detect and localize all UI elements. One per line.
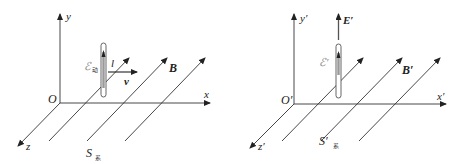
conducting-rod-prime: [336, 44, 341, 98]
relativity-frames-diagram: y x z O B l v ℰ 动 S 系 y′ x′ z′ O′ B: [0, 0, 457, 164]
origin-label: O: [48, 92, 57, 106]
b-prime-field-line: [321, 58, 402, 141]
x-axis-label: x: [203, 88, 209, 100]
b-field-line: [125, 58, 205, 141]
b-prime-field-label: B′: [401, 63, 413, 77]
b-prime-field-line: [359, 58, 440, 141]
frame-subscript: 系: [95, 154, 101, 161]
origin-prime-label: O′: [281, 93, 293, 107]
b-field-line: [87, 58, 167, 141]
conducting-rod: [101, 43, 106, 97]
y-prime-axis-label: y′: [299, 12, 308, 24]
frame-prime-subscript: 系: [333, 142, 339, 149]
z-axis: [18, 103, 60, 146]
y-axis-label: y: [65, 10, 71, 22]
emf-subscript: 动: [92, 66, 98, 74]
left-panel-s-frame: y x z O B l v ℰ 动 S 系: [18, 10, 210, 161]
electric-field-label: E′: [342, 14, 353, 26]
b-field-label: B: [168, 61, 177, 75]
emf-prime-label: ℰ′: [319, 56, 329, 68]
frame-label: S: [86, 146, 92, 160]
rod-length-label: l: [111, 57, 114, 69]
z-prime-axis-label: z′: [257, 140, 265, 152]
velocity-label: v: [124, 75, 129, 87]
frame-prime-label: S′: [319, 134, 328, 148]
z-axis-label: z: [25, 140, 31, 152]
z-prime-axis: [250, 104, 294, 148]
right-panel-s-prime-frame: y′ x′ z′ O′ B′ E′ ℰ′ S′ 系: [250, 12, 446, 152]
emf-label: ℰ: [84, 60, 92, 72]
x-prime-axis-label: x′: [436, 90, 445, 102]
